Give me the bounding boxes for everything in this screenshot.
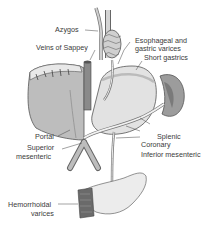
label-coronary: Coronary (141, 141, 171, 149)
superior-mesenteric-vein (70, 142, 98, 168)
liver (28, 64, 84, 140)
azygos-vein (96, 8, 101, 60)
label-esophageal-varices-line2: gastric varices (135, 45, 181, 53)
inferior-vena-cava (84, 61, 91, 111)
label-superior-mesenteric-line1: Superior (27, 144, 54, 152)
label-superior-mesenteric-line2: mesenteric (16, 153, 51, 161)
label-azygos: Azygos (55, 26, 79, 34)
spleen (160, 75, 184, 117)
label-portal: Portal (35, 133, 54, 141)
label-inferior-mesenteric: Inferior mesenteric (141, 151, 201, 159)
inferior-mesenteric-vein (112, 132, 114, 182)
label-hemorrhoidal-varices-line1: Hemorrhoidal (8, 201, 51, 209)
label-hemorrhoidal-varices-line2: varices (31, 210, 54, 218)
label-veins-of-sappey: Veins of Sappey (36, 44, 88, 52)
label-short-gastrics: Short gastrics (144, 54, 188, 62)
esophageal-varices (103, 30, 121, 58)
rectum-hemorrhoidal-plexus (78, 188, 94, 218)
